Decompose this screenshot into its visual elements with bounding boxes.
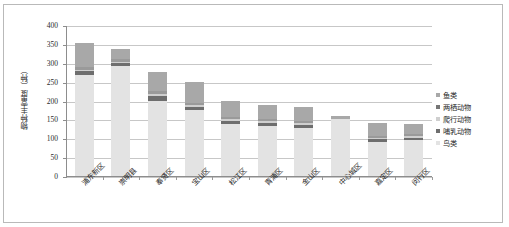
- bar-stack[interactable]: [111, 49, 130, 176]
- bar-segment-哺乳动物[interactable]: [148, 96, 167, 101]
- legend-item[interactable]: 爬行动物: [436, 113, 471, 125]
- bar-segment-哺乳动物[interactable]: [221, 121, 240, 124]
- bar-segment-鸟类[interactable]: [258, 126, 277, 176]
- bar-segment-鱼类[interactable]: [111, 49, 130, 59]
- bar-segment-两栖动物[interactable]: [111, 59, 130, 61]
- bar-segment-鱼类[interactable]: [331, 116, 350, 119]
- y-tick-mark: [63, 45, 67, 46]
- bar-segment-鱼类[interactable]: [75, 43, 94, 66]
- bar-segment-鸟类[interactable]: [185, 110, 204, 176]
- y-tick-label: 300: [32, 60, 58, 68]
- bar-segment-哺乳动物[interactable]: [368, 139, 387, 142]
- bar-segment-两栖动物[interactable]: [258, 119, 277, 121]
- bar-stack[interactable]: [294, 107, 313, 176]
- y-tick-label: 0: [32, 173, 58, 181]
- bar-segment-爬行动物[interactable]: [75, 70, 94, 72]
- y-tick-mark: [63, 64, 67, 65]
- bar-segment-两栖动物[interactable]: [185, 103, 204, 105]
- x-tick-mark: [176, 177, 177, 180]
- y-tick-label: 200: [32, 98, 58, 106]
- y-tick-label: 100: [32, 135, 58, 143]
- x-tick-mark: [432, 177, 433, 180]
- legend-label: 爬行动物: [443, 114, 471, 124]
- legend-label: 哺乳动物: [443, 126, 471, 136]
- bar-segment-鸟类[interactable]: [148, 101, 167, 177]
- y-tick-mark: [63, 83, 67, 84]
- bar-stack[interactable]: [75, 43, 94, 176]
- legend-swatch-icon: [436, 117, 440, 121]
- y-tick-label: 350: [32, 41, 58, 49]
- legend-item[interactable]: 哺乳动物: [436, 125, 471, 137]
- bar-segment-两栖动物[interactable]: [404, 134, 423, 136]
- bar-segment-鸟类[interactable]: [75, 75, 94, 176]
- bar-segment-哺乳动物[interactable]: [185, 107, 204, 110]
- y-tick-mark: [63, 158, 67, 159]
- x-tick-mark: [286, 177, 287, 180]
- bar-segment-两栖动物[interactable]: [148, 91, 167, 94]
- x-tick-mark: [359, 177, 360, 180]
- bar-segment-爬行动物[interactable]: [404, 136, 423, 138]
- bar-segment-鱼类[interactable]: [185, 82, 204, 104]
- bar-stack[interactable]: [221, 101, 240, 176]
- bar-segment-哺乳动物[interactable]: [75, 71, 94, 74]
- legend-swatch-icon: [436, 141, 440, 145]
- bar-segment-爬行动物[interactable]: [368, 138, 387, 140]
- bar-segment-哺乳动物[interactable]: [294, 125, 313, 128]
- legend-label: 鸟类: [443, 138, 457, 148]
- x-tick-mark: [249, 177, 250, 180]
- bar-segment-鱼类[interactable]: [258, 105, 277, 119]
- bar-segment-鱼类[interactable]: [294, 107, 313, 121]
- chart-container: 物种丰富度（种） 400350300250200150100500 浦东新区崇明…: [3, 4, 503, 223]
- bar-segment-鱼类[interactable]: [148, 72, 167, 91]
- y-tick-mark: [63, 120, 67, 121]
- bar-stack[interactable]: [368, 123, 387, 176]
- bar-segment-鸟类[interactable]: [294, 128, 313, 176]
- bar-stack[interactable]: [331, 116, 350, 176]
- bar-stack[interactable]: [148, 72, 167, 176]
- bar-segment-哺乳动物[interactable]: [111, 63, 130, 66]
- legend-item[interactable]: 鸟类: [436, 137, 471, 149]
- legend-swatch-icon: [436, 105, 440, 109]
- bar-segment-鱼类[interactable]: [404, 124, 423, 134]
- chart-legend: 鱼类两栖动物爬行动物哺乳动物鸟类: [436, 89, 471, 149]
- bar-segment-爬行动物[interactable]: [185, 105, 204, 107]
- bar-segment-两栖动物[interactable]: [221, 117, 240, 119]
- bar-segment-两栖动物[interactable]: [368, 136, 387, 138]
- x-tick-mark: [103, 177, 104, 180]
- legend-item[interactable]: 两栖动物: [436, 101, 471, 113]
- bar-segment-鸟类[interactable]: [331, 119, 350, 176]
- bar-segment-两栖动物[interactable]: [294, 121, 313, 123]
- y-tick-mark: [63, 177, 67, 178]
- legend-swatch-icon: [436, 129, 440, 133]
- x-tick-mark: [139, 177, 140, 180]
- bar-segment-爬行动物[interactable]: [258, 121, 277, 123]
- y-tick-label: 400: [32, 22, 58, 30]
- bar-segment-鸟类[interactable]: [111, 66, 130, 176]
- y-tick-mark: [63, 102, 67, 103]
- bar-segment-爬行动物[interactable]: [221, 119, 240, 121]
- bar-stack[interactable]: [185, 82, 204, 176]
- bar-segment-鱼类[interactable]: [221, 101, 240, 117]
- bar-segment-鱼类[interactable]: [368, 123, 387, 135]
- plot-area: 400350300250200150100500 浦东新区崇明县奉贤区宝山区松江…: [66, 26, 432, 177]
- x-tick-mark: [322, 177, 323, 180]
- y-tick-mark: [63, 139, 67, 140]
- bar-stack[interactable]: [258, 105, 277, 176]
- bar-segment-两栖动物[interactable]: [75, 67, 94, 70]
- legend-label: 两栖动物: [443, 102, 471, 112]
- legend-swatch-icon: [436, 93, 440, 97]
- y-axis-title: 物种丰富度（种）: [18, 43, 32, 153]
- legend-item[interactable]: 鱼类: [436, 89, 471, 101]
- bar-segment-哺乳动物[interactable]: [258, 123, 277, 126]
- x-tick-mark: [395, 177, 396, 180]
- bar-segment-爬行动物[interactable]: [294, 123, 313, 125]
- y-tick-label: 50: [32, 154, 58, 162]
- gridline: [66, 26, 432, 27]
- y-tick-label: 250: [32, 79, 58, 87]
- bar-segment-鸟类[interactable]: [221, 124, 240, 176]
- bar-stack[interactable]: [404, 124, 423, 176]
- bar-segment-爬行动物[interactable]: [148, 94, 167, 96]
- legend-label: 鱼类: [443, 90, 457, 100]
- bar-segment-爬行动物[interactable]: [111, 62, 130, 64]
- bar-segment-哺乳动物[interactable]: [404, 138, 423, 141]
